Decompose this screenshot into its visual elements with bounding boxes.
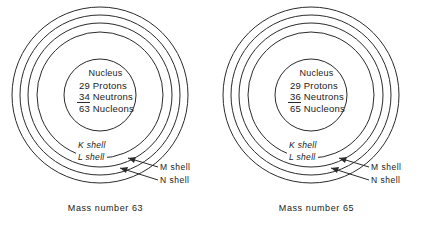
nucleus-circle	[64, 59, 136, 131]
figure-caption-left: Mass number 63	[0, 203, 211, 213]
atom-diagram-mass-63: Nucleus 29 Protons 34 Neutrons 63 Nucleo…	[0, 0, 211, 229]
shell-label-l: L shell	[287, 152, 318, 162]
atom-shells-svg-left	[0, 0, 211, 229]
shell-label-l: L shell	[76, 152, 107, 162]
figure-caption-right: Mass number 65	[211, 203, 421, 213]
atom-shells-svg-right	[211, 0, 421, 229]
shell-label-m: M shell	[371, 162, 401, 172]
shell-label-k: K shell	[287, 140, 319, 150]
shell-label-n: N shell	[371, 175, 400, 185]
nucleus-circle	[275, 59, 347, 131]
shell-label-m: M shell	[160, 162, 190, 172]
arrow-head-m-shell	[339, 157, 347, 163]
shell-label-n: N shell	[160, 175, 189, 185]
arrow-head-m-shell	[128, 157, 136, 163]
shell-label-k: K shell	[76, 140, 108, 150]
figure-canvas: Nucleus 29 Protons 34 Neutrons 63 Nucleo…	[0, 0, 421, 229]
atom-diagram-mass-65: Nucleus 29 Protons 36 Neutrons 65 Nucleo…	[211, 0, 421, 229]
